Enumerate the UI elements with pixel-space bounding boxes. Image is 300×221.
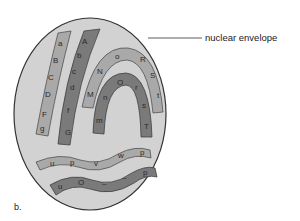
svg-text:u: u [50, 159, 54, 168]
svg-text:M: M [87, 90, 94, 99]
svg-text:p: p [70, 158, 75, 167]
svg-text:o: o [115, 52, 120, 61]
svg-text:s: s [142, 101, 146, 110]
svg-text:c: c [72, 67, 76, 76]
svg-text:g: g [40, 124, 44, 133]
svg-text:a: a [58, 39, 63, 48]
svg-text:O: O [117, 78, 123, 87]
svg-text:p: p [143, 168, 148, 177]
svg-text:D: D [45, 90, 51, 99]
svg-text:r: r [135, 83, 138, 92]
callout-nuclear-envelope: nuclear envelope [205, 32, 277, 43]
svg-text:b: b [77, 51, 82, 60]
svg-text:N: N [97, 67, 103, 76]
svg-text:R: R [140, 55, 146, 64]
panel-label: b. [14, 202, 22, 212]
svg-text:F: F [42, 110, 47, 119]
svg-text:C: C [48, 73, 54, 82]
svg-text:T: T [144, 122, 149, 131]
svg-text:S: S [150, 71, 155, 80]
svg-text:–: – [122, 173, 127, 182]
svg-text:G: G [65, 128, 71, 137]
svg-text:w: w [117, 151, 124, 160]
svg-text:A: A [82, 37, 88, 46]
svg-text:B: B [53, 56, 58, 65]
svg-text:d: d [70, 83, 74, 92]
svg-text:u: u [58, 182, 62, 191]
svg-text:–: – [102, 179, 107, 188]
svg-text:n: n [103, 93, 107, 102]
nucleus-diagram: a B C D F g A b c d f G M N o R S t m n … [0, 0, 300, 221]
svg-text:O: O [78, 178, 84, 187]
svg-text:p: p [140, 148, 145, 157]
svg-text:v: v [94, 159, 98, 168]
svg-text:m: m [96, 116, 103, 125]
